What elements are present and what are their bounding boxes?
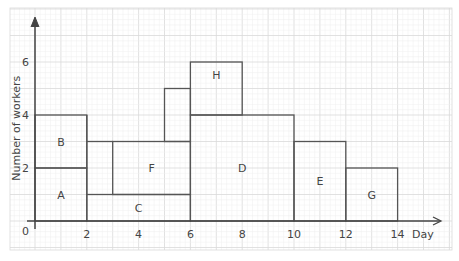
x-tick-label: 10 <box>287 228 301 241</box>
x-tick-label: 12 <box>339 228 353 241</box>
y-axis-arrow-icon <box>31 17 39 27</box>
y-tick-label: 4 <box>22 109 29 122</box>
y-tick-label: 2 <box>22 162 29 175</box>
origin-label: 0 <box>22 225 29 238</box>
axes <box>27 17 441 229</box>
labels: 24681012142460DayNumber of workers <box>10 56 434 241</box>
block-label-a: A <box>57 189 65 202</box>
y-axis-title: Number of workers <box>10 75 23 180</box>
resource-histogram: ABCFDHEG 24681012142460DayNumber of work… <box>0 0 459 261</box>
block-label-f: F <box>148 162 154 175</box>
block-label-g: G <box>367 189 376 202</box>
grid <box>10 8 452 250</box>
x-tick-label: 4 <box>135 228 142 241</box>
block-label-d: D <box>238 162 246 175</box>
x-tick-label: 8 <box>239 228 246 241</box>
block-label-b: B <box>57 136 65 149</box>
x-tick-label: 14 <box>391 228 405 241</box>
block-label-c: C <box>135 202 143 215</box>
x-tick-label: 2 <box>83 228 90 241</box>
block-label-e: E <box>316 175 323 188</box>
block-label-h: H <box>212 69 220 82</box>
x-tick-label: 6 <box>187 228 194 241</box>
y-tick-label: 6 <box>22 56 29 69</box>
x-axis-title: Day <box>412 228 434 241</box>
